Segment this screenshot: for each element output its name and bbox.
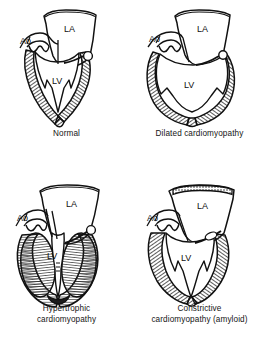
panel-grid: Ao LA LV Normal xyxy=(0,0,266,354)
label-lv-constrictive: LV xyxy=(181,253,191,263)
label-ao-hypertrophic: Ao xyxy=(17,213,28,223)
label-ao-normal: Ao xyxy=(20,36,31,46)
label-la-hypertrophic: LA xyxy=(66,199,77,209)
mitral-annulus-icon xyxy=(84,52,93,61)
mitral-annulus-icon xyxy=(219,51,227,59)
caption-hypertrophic: Hypertrophic cardiomyopathy xyxy=(37,304,96,325)
heart-diagram-normal: Ao LA LV xyxy=(0,0,133,133)
label-la-normal: LA xyxy=(64,24,75,34)
label-la-dilated: LA xyxy=(197,24,208,34)
label-la-constrictive: LA xyxy=(197,201,208,211)
caption-dilated: Dilated cardiomyopathy xyxy=(156,129,244,140)
cardiac-apex xyxy=(187,118,197,127)
heart-diagram-hypertrophic: Ao LA LV xyxy=(0,177,133,310)
label-lv-hypertrophic: LV xyxy=(47,251,57,261)
caption-constrictive: Constrictive cardiomyopathy (amyloid) xyxy=(151,304,247,325)
panel-constrictive: Ao LA LV Constrictive cardiomyopathy (am… xyxy=(133,177,266,354)
label-lv-dilated: LV xyxy=(184,80,194,90)
mitral-annulus-icon xyxy=(87,226,96,235)
panel-dilated: Ao LA LV Dilated cardiomyopathy xyxy=(133,0,266,177)
panel-hypertrophic: Ao LA LV Hypertrophic cardiomyopathy xyxy=(0,177,133,354)
label-lv-normal: LV xyxy=(52,76,62,86)
caption-normal: Normal xyxy=(53,129,80,140)
heart-diagram-constrictive: Ao LA LV xyxy=(133,177,266,310)
panel-normal: Ao LA LV Normal xyxy=(0,0,133,177)
label-ao-dilated: Ao xyxy=(149,34,160,44)
label-ao-constrictive: Ao xyxy=(147,213,158,223)
heart-diagram-dilated: Ao LA LV xyxy=(133,0,266,133)
cardiac-morphology-figure: Ao LA LV Normal xyxy=(0,0,266,354)
